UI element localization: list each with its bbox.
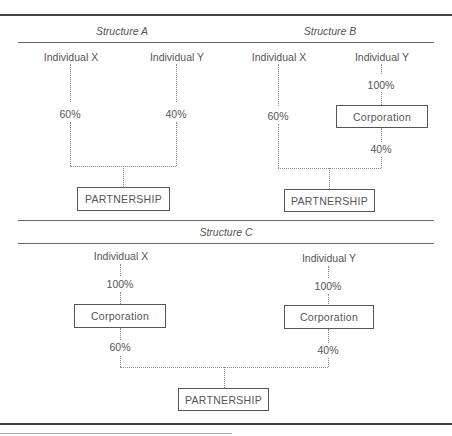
structure-b-corp-line xyxy=(381,128,382,142)
structure-b-y-corp-line xyxy=(381,92,382,105)
structure-b-individual-y: Individual Y xyxy=(355,51,409,63)
structure-c-title: Structure C xyxy=(18,226,434,238)
structure-a-individual-x: Individual X xyxy=(44,51,98,63)
structure-b-y-corp-pct: 100% xyxy=(368,79,395,91)
structure-c-x-corp-pct: 100% xyxy=(107,278,134,290)
footnote-rule xyxy=(0,433,232,434)
structure-c-y-corp-pct: 100% xyxy=(315,280,342,292)
structure-b-corp-line-lower xyxy=(381,157,382,168)
structure-b-y-line xyxy=(381,64,382,74)
structure-a-x-pct: 60% xyxy=(59,108,80,120)
structure-a-y-line xyxy=(176,64,177,102)
structure-a-y-pct: 40% xyxy=(165,108,186,120)
structure-c-individual-y: Individual Y xyxy=(302,252,356,264)
structure-b-title: Structure B xyxy=(226,25,434,37)
structure-b-partnership-box: PARTNERSHIP xyxy=(284,189,375,212)
structure-a-y-line-lower xyxy=(176,122,177,166)
structure-c-individual-x: Individual X xyxy=(94,250,148,262)
structure-b-individual-x: Individual X xyxy=(252,51,306,63)
structure-c-top-rule xyxy=(18,220,434,221)
structure-a-title: Structure A xyxy=(18,25,226,37)
structure-c-y-corporation-box: Corporation xyxy=(284,305,374,329)
structure-b-x-line xyxy=(278,64,279,106)
structure-a-partnership-line xyxy=(123,166,124,187)
structure-c-partnership-box: PARTNERSHIP xyxy=(178,388,269,411)
structure-c-y-pct: 40% xyxy=(317,344,338,356)
structure-a-partnership-box: PARTNERSHIP xyxy=(77,187,170,211)
structure-b-partnership-line xyxy=(329,168,330,189)
structure-c-x-corp-line-lower xyxy=(120,328,121,340)
structure-b-x-line-lower xyxy=(278,124,279,168)
structure-a-rule xyxy=(18,42,226,43)
structure-a-x-line xyxy=(70,64,71,102)
structure-c-partnership-line xyxy=(224,367,225,388)
structure-c-y-line-lower xyxy=(328,358,329,367)
bottom-rule xyxy=(0,423,452,425)
structure-b-x-pct: 60% xyxy=(267,110,288,122)
structure-a-individual-y: Individual Y xyxy=(150,51,204,63)
structure-a-x-line-lower xyxy=(70,122,71,166)
structure-b-rule xyxy=(226,42,434,43)
structure-c-x-line-lower xyxy=(120,356,121,367)
structure-c-x-corp-line xyxy=(120,292,121,304)
structure-c-x-pct: 60% xyxy=(109,341,130,353)
structure-c-y-line xyxy=(328,266,329,278)
structure-c-x-line xyxy=(120,264,121,276)
structure-c-rule xyxy=(18,243,434,244)
structure-c-y-corp-line-lower xyxy=(328,329,329,343)
structure-b-corp-pct: 40% xyxy=(370,143,391,155)
top-rule xyxy=(0,14,452,16)
structure-b-corporation-box: Corporation xyxy=(336,105,428,128)
structure-c-x-corporation-box: Corporation xyxy=(74,304,166,328)
